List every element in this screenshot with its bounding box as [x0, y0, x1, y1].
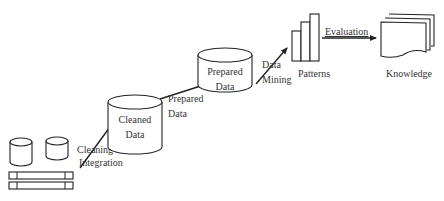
patterns-bar-chart-icon [292, 14, 319, 61]
data-mining-label-line1: Data [262, 59, 281, 70]
prepared-step-label-line2: Data [168, 108, 187, 119]
kdd-process-diagram: Cleaning Integration Cleaned Data Prepar… [0, 0, 444, 201]
prepared-step-label-line1: Prepared [168, 93, 204, 104]
data-mining-label-line2: Mining [262, 74, 291, 85]
patterns-label: Patterns [298, 68, 330, 79]
prepared-data-label-line1: Prepared [207, 66, 243, 77]
evaluation-label: Evaluation [325, 26, 368, 37]
knowledge-label: Knowledge [386, 68, 433, 79]
source-database-icon-1 [10, 138, 32, 166]
cleaned-data-label-line2: Data [126, 129, 145, 140]
source-flat-files-icon [9, 172, 73, 189]
knowledge-documents-icon [381, 14, 434, 57]
integration-label: Integration [79, 157, 123, 168]
prepared-data-label-line2: Data [216, 81, 235, 92]
cleaned-data-label-line1: Cleaned [119, 114, 152, 125]
source-database-icon-2 [46, 137, 68, 160]
